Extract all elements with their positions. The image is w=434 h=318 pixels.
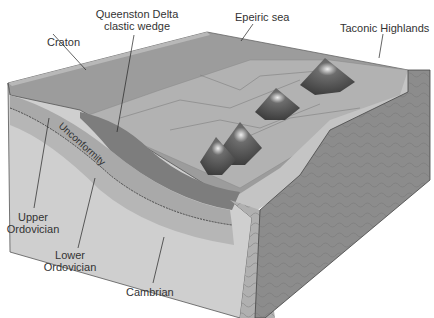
label-craton: Craton (47, 36, 80, 48)
label-queenston-delta: Queenston Delta clastic wedge (93, 8, 181, 32)
label-lower-ordovician: Lower Ordovician (40, 249, 100, 273)
label-upper-ordovician: Upper Ordovician (3, 211, 63, 235)
label-epeiric-sea: Epeiric sea (235, 11, 289, 23)
label-cambrian: Cambrian (126, 286, 174, 298)
label-taconic-highlands: Taconic Highlands (340, 22, 429, 34)
